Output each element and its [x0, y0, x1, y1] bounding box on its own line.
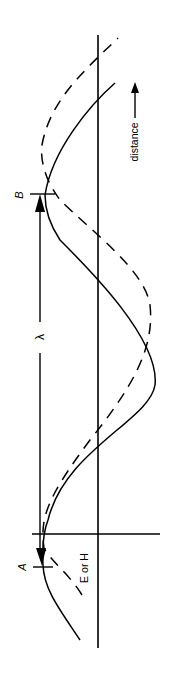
label-field-axis: E or H: [78, 553, 90, 583]
distance-arrowhead-icon: [131, 82, 139, 93]
label-distance: distance: [128, 122, 140, 161]
solid-wave-curve: [43, 83, 156, 640]
label-b: B: [13, 191, 25, 198]
label-wavelength: λ: [33, 334, 47, 340]
arrowhead-down-icon: [36, 548, 46, 566]
label-a: A: [16, 563, 28, 571]
dashed-wave-curve: [42, 38, 151, 595]
arrowhead-up-icon: [35, 194, 45, 212]
wave-diagram: B A λ E or H distance: [0, 0, 171, 682]
